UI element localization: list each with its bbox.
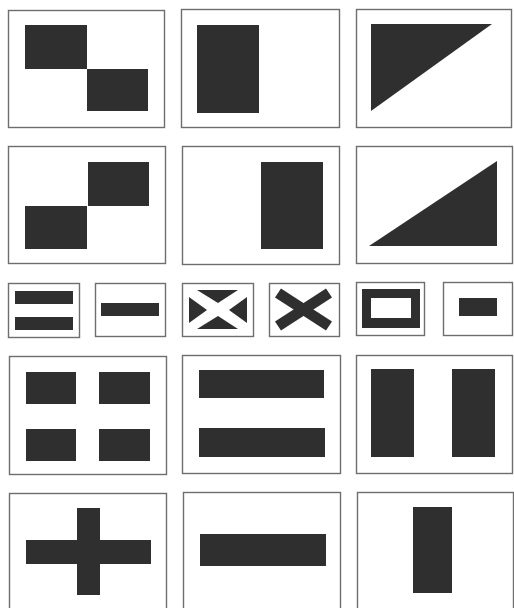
flag-shape [87, 69, 148, 111]
flag-r2c3 [357, 147, 513, 264]
flag-shape [452, 369, 495, 457]
flag-shape [26, 429, 76, 461]
flag-r4c2 [183, 356, 341, 474]
flag-shape [15, 317, 73, 330]
flag-shape [101, 303, 159, 316]
flag-pattern-diagram [0, 0, 514, 608]
flag-r5c2 [184, 493, 341, 608]
flag-shape [25, 25, 87, 69]
flag-shape [77, 508, 100, 595]
flag-shape [199, 428, 325, 457]
flag-r1c2 [182, 10, 340, 128]
flag-r4c3 [357, 356, 513, 474]
flag-r4c1 [10, 357, 167, 475]
flag-r2c2 [183, 147, 340, 265]
flag-r3c1 [9, 284, 80, 338]
flag-shape [197, 25, 259, 113]
flag-shape [261, 162, 323, 249]
flag-shape [15, 291, 73, 304]
flag-shape [88, 162, 149, 206]
flag-shape [26, 372, 76, 404]
flag-shape [200, 534, 326, 566]
flag-shape [459, 298, 497, 316]
flag-r3c6 [444, 283, 513, 336]
flag-r5c1 [10, 494, 167, 608]
flag-shape [199, 370, 324, 398]
flag-shape [25, 206, 87, 249]
flag-shape [413, 507, 452, 593]
flag-r1c3 [357, 10, 512, 128]
flag-r1c1 [9, 11, 165, 128]
flag-shape [371, 369, 414, 457]
flag-r5c3 [358, 493, 514, 608]
flag-r2c1 [9, 147, 166, 264]
flag-shape [99, 429, 150, 461]
flag-r3c4 [270, 284, 340, 337]
flag-shape [99, 372, 150, 404]
flag-r3c5 [357, 283, 425, 336]
flag-r3c3 [183, 284, 254, 337]
flag-r3c2 [96, 284, 166, 337]
